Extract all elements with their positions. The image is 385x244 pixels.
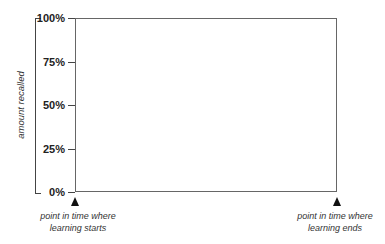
end-annotation-line1: point in time where xyxy=(285,210,385,222)
y-axis-bracket xyxy=(35,18,41,194)
end-arrow-icon xyxy=(333,197,341,206)
start-annotation-line1: point in time where xyxy=(28,210,128,222)
tick-label-50: 50% xyxy=(43,99,65,111)
tick-25 xyxy=(68,149,75,150)
tick-75 xyxy=(68,62,75,63)
start-arrow-icon xyxy=(71,197,79,206)
start-annotation-line2: learning starts xyxy=(28,222,128,234)
tick-label-0: 0% xyxy=(49,186,65,198)
tick-50 xyxy=(68,105,75,106)
tick-label-100: 100% xyxy=(37,12,65,24)
tick-100 xyxy=(68,18,75,19)
tick-label-25: 25% xyxy=(43,143,65,155)
start-annotation: point in time where learning starts xyxy=(28,210,128,234)
tick-0 xyxy=(68,192,75,193)
end-annotation: point in time where learning ends xyxy=(285,210,385,234)
y-axis-label: amount recalled xyxy=(15,71,26,139)
tick-label-75: 75% xyxy=(43,56,65,68)
end-annotation-line2: learning ends xyxy=(285,222,385,234)
plot-area xyxy=(75,18,337,192)
